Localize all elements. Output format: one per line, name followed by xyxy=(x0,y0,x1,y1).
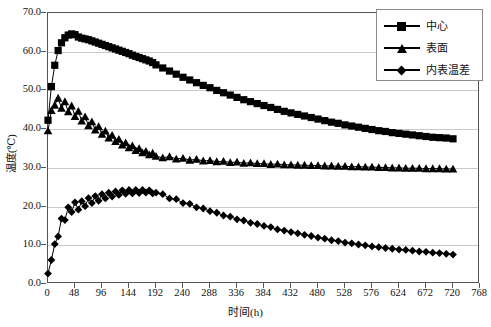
data-point-square xyxy=(348,122,355,129)
y-tick-mark xyxy=(41,167,46,168)
data-point-triangle xyxy=(88,117,97,125)
data-point-diamond xyxy=(274,226,282,234)
data-point-square xyxy=(402,131,409,138)
x-tick-label: 528 xyxy=(336,287,352,298)
data-point-diamond xyxy=(260,222,268,230)
y-tick-label: 40.0 xyxy=(23,123,41,134)
data-point-diamond xyxy=(436,249,444,257)
x-tick-mark xyxy=(479,283,480,288)
data-point-square xyxy=(355,124,362,131)
data-point-square xyxy=(166,67,173,74)
data-point-square xyxy=(260,102,267,109)
data-point-square xyxy=(321,117,328,124)
legend-item-surface: 表面 xyxy=(377,37,482,59)
data-point-triangle xyxy=(165,152,174,160)
data-point-square xyxy=(436,134,443,141)
y-tick-label: 70.0 xyxy=(23,7,41,18)
data-point-diamond xyxy=(226,213,234,221)
data-point-diamond xyxy=(220,212,228,220)
x-tick-mark xyxy=(290,283,291,288)
x-tick-label: 576 xyxy=(363,287,379,298)
y-tick-mark xyxy=(41,128,46,129)
data-point-square xyxy=(55,47,62,54)
series-line xyxy=(48,190,453,274)
data-point-diamond xyxy=(409,247,417,255)
data-point-diamond xyxy=(334,237,342,245)
data-point-square xyxy=(186,76,193,83)
data-point-square xyxy=(267,104,274,111)
legend-key-square-icon xyxy=(384,20,420,32)
data-point-triangle xyxy=(273,160,282,168)
x-tick-mark xyxy=(74,283,75,288)
data-point-square xyxy=(220,89,227,96)
x-tick-label: 288 xyxy=(201,287,217,298)
x-tick-label: 768 xyxy=(471,287,487,298)
data-point-diamond xyxy=(442,250,450,258)
x-tick-mark xyxy=(371,283,372,288)
x-tick-label: 720 xyxy=(444,287,460,298)
x-tick-mark xyxy=(425,283,426,288)
x-tick-label: 240 xyxy=(174,287,190,298)
data-point-square xyxy=(193,79,200,86)
legend-label-center: 中心 xyxy=(426,21,448,32)
data-point-diamond xyxy=(287,228,295,236)
data-point-square xyxy=(240,96,247,103)
data-point-diamond xyxy=(199,205,207,213)
data-point-triangle xyxy=(94,122,103,130)
data-point-square xyxy=(449,135,456,142)
data-point-diamond xyxy=(280,227,288,235)
data-point-triangle xyxy=(246,159,255,167)
data-point-diamond xyxy=(240,217,248,225)
legend-item-center: 中心 xyxy=(377,15,482,37)
y-tick-mark xyxy=(41,244,46,245)
data-point-square xyxy=(200,82,207,89)
data-point-triangle xyxy=(81,112,90,120)
data-point-diamond xyxy=(54,232,62,240)
data-point-square xyxy=(159,64,166,71)
data-point-diamond xyxy=(166,195,174,203)
data-point-square xyxy=(152,61,159,68)
legend-key-triangle-icon xyxy=(384,42,420,54)
data-point-square xyxy=(51,62,58,69)
legend-key-diamond-icon xyxy=(384,64,420,76)
data-point-diamond xyxy=(294,229,302,237)
data-point-triangle xyxy=(74,107,83,115)
temperature-time-chart: 0.010.020.030.040.050.060.070.0 温度(℃) 04… xyxy=(0,0,491,327)
data-point-triangle xyxy=(179,154,188,162)
data-point-diamond xyxy=(328,236,336,244)
data-point-diamond xyxy=(402,246,410,254)
data-point-square xyxy=(247,98,254,105)
data-point-square xyxy=(314,115,321,122)
x-tick-mark xyxy=(155,283,156,288)
data-point-square xyxy=(179,74,186,81)
data-point-diamond xyxy=(193,203,201,211)
data-point-square xyxy=(409,131,416,138)
data-point-square xyxy=(227,91,234,98)
data-point-diamond xyxy=(51,240,59,248)
x-tick-mark xyxy=(209,283,210,288)
y-tick-mark xyxy=(41,283,46,284)
data-point-diamond xyxy=(341,239,349,247)
y-axis-title: 温度(℃) xyxy=(3,118,18,190)
legend: 中心 表面 内表温差 xyxy=(376,9,483,81)
data-point-square xyxy=(206,84,213,91)
data-point-square xyxy=(173,71,180,78)
data-point-diamond xyxy=(44,270,52,278)
data-point-square xyxy=(416,132,423,139)
data-point-diamond xyxy=(321,235,329,243)
data-point-diamond xyxy=(267,223,275,231)
data-point-diamond xyxy=(172,195,180,203)
data-point-diamond xyxy=(429,249,437,257)
data-point-diamond xyxy=(159,190,167,198)
y-tick-label: 20.0 xyxy=(23,201,41,212)
data-point-square xyxy=(443,134,450,141)
x-tick-mark xyxy=(317,283,318,288)
data-point-square xyxy=(213,87,220,94)
y-tick-mark xyxy=(41,89,46,90)
data-point-square xyxy=(233,94,240,101)
data-point-square xyxy=(395,130,402,137)
data-point-square xyxy=(281,108,288,115)
legend-item-difference: 内表温差 xyxy=(377,59,482,81)
x-tick-label: 0 xyxy=(44,287,49,298)
data-point-square xyxy=(382,128,389,135)
